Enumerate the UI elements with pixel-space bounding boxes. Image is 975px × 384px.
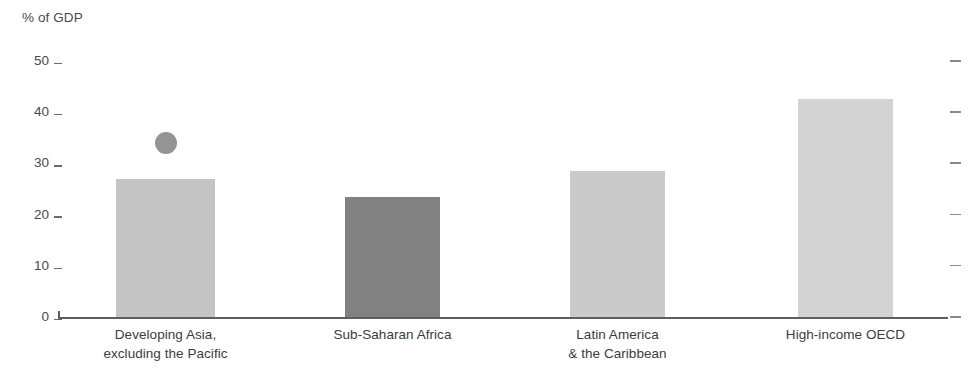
bar — [798, 99, 893, 317]
y-axis-tick-mark — [54, 268, 62, 270]
y-axis-tick-mark — [54, 165, 62, 167]
right-axis-tick-mark — [950, 60, 961, 62]
x-axis-origin-stub — [58, 311, 60, 318]
y-axis-tick-mark — [54, 216, 62, 218]
y-axis-tick: 10 — [34, 258, 62, 274]
y-axis-tick-label: 0 — [41, 309, 49, 325]
y-axis-tick-label: 50 — [34, 53, 49, 69]
y-axis-tick-label: 20 — [34, 207, 49, 223]
y-axis-tick-mark — [54, 319, 62, 321]
x-axis-baseline — [58, 317, 948, 319]
y-axis-tick: 50 — [34, 53, 62, 69]
x-axis-category-label-line: Latin America — [498, 326, 738, 345]
x-axis-category-label: Developing Asia,excluding the Pacific — [46, 326, 286, 363]
y-axis-tick: 20 — [34, 207, 62, 223]
chart-container: % of GDP 50403020100 Developing Asia,exc… — [0, 0, 975, 384]
x-axis-category-labels: Developing Asia,excluding the PacificSub… — [0, 326, 975, 384]
y-axis-tick: 30 — [34, 155, 62, 171]
y-axis-tick-label: 10 — [34, 258, 49, 274]
bar — [116, 179, 215, 317]
bar — [570, 171, 665, 317]
x-axis-category-label: Sub-Saharan Africa — [273, 326, 513, 345]
y-axis-tick-label: 40 — [34, 104, 49, 120]
y-axis-tick: 40 — [34, 104, 62, 120]
y-axis-tick-mark — [54, 63, 62, 65]
x-axis-category-label-line: Developing Asia, — [46, 326, 286, 345]
bar — [345, 197, 440, 317]
y-axis-tick-label: 30 — [34, 155, 49, 171]
x-axis-category-label-line: High-income OECD — [726, 326, 966, 345]
right-axis-tick-mark — [950, 265, 961, 267]
right-axis-tick-mark — [950, 111, 961, 113]
x-axis-category-label-line: Sub-Saharan Africa — [273, 326, 513, 345]
right-axis-tick-mark — [950, 162, 961, 164]
right-axis-tick-mark — [950, 214, 961, 216]
x-axis-category-label: High-income OECD — [726, 326, 966, 345]
x-axis-category-label-line: & the Caribbean — [498, 345, 738, 364]
data-point-marker — [155, 132, 177, 154]
right-axis-tick-mark — [950, 316, 961, 318]
y-axis-tick-mark — [54, 114, 62, 116]
x-axis-category-label-line: excluding the Pacific — [46, 345, 286, 364]
plot-area — [62, 55, 945, 317]
x-axis-category-label: Latin America& the Caribbean — [498, 326, 738, 363]
